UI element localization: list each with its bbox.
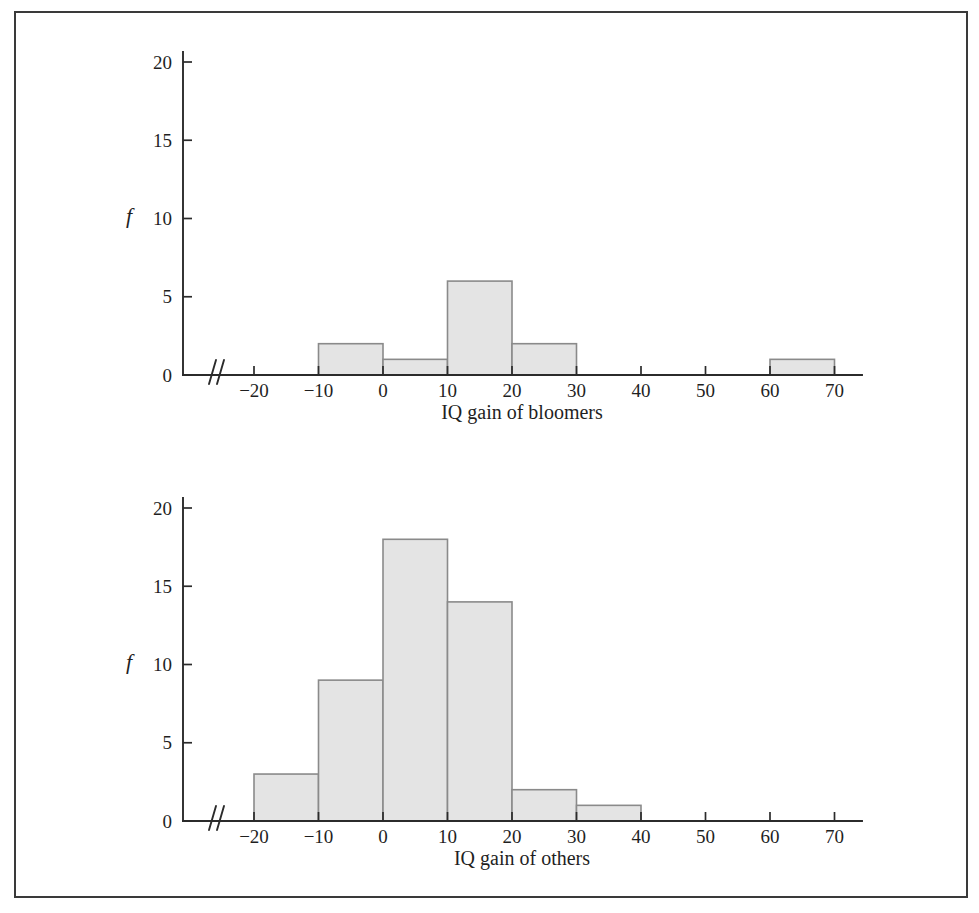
y-tick-label: 20	[153, 498, 172, 519]
figure-root: 05101520 −20−10010203040506070 f IQ gain…	[0, 0, 979, 913]
histogram-svg-bloomers: 05101520 −20−10010203040506070 f IQ gain…	[0, 0, 979, 456]
x-tick-label: 50	[696, 380, 715, 401]
x-tick-label: −20	[239, 380, 269, 401]
x-tick-label: 70	[825, 826, 844, 847]
histogram-bar	[577, 805, 642, 821]
x-tick-label: −20	[239, 826, 269, 847]
histogram-bar	[383, 359, 448, 375]
x-tick-label: 0	[378, 826, 388, 847]
histogram-bar	[319, 680, 384, 821]
x-tick-label: −10	[304, 826, 334, 847]
x-tick-labels-bloomers: −20−10010203040506070	[239, 380, 844, 401]
y-tick-label: 10	[153, 208, 172, 229]
y-tick-label: 10	[153, 654, 172, 675]
histogram-panel-others: 05101520 −20−10010203040506070 f IQ gain…	[0, 428, 979, 898]
histogram-bar	[448, 281, 513, 375]
bars-group-bloomers	[319, 281, 835, 375]
y-tick-label: 15	[153, 130, 172, 151]
y-tick-marks-bloomers	[183, 62, 192, 375]
x-tick-label: 70	[825, 380, 844, 401]
histogram-bar	[383, 539, 448, 821]
y-tick-label: 5	[163, 286, 173, 307]
y-tick-label: 0	[163, 365, 173, 386]
x-tick-labels-others: −20−10010203040506070	[239, 826, 844, 847]
y-tick-label: 0	[163, 811, 173, 832]
y-axis-label: f	[126, 649, 135, 674]
x-axis-break-icon	[209, 806, 224, 830]
y-axis-label: f	[126, 203, 135, 228]
x-tick-label: 20	[503, 826, 522, 847]
bars-group-others	[254, 539, 641, 821]
x-tick-label: 30	[567, 826, 586, 847]
y-tick-label: 15	[153, 576, 172, 597]
y-tick-label: 5	[163, 732, 173, 753]
x-axis-title: IQ gain of bloomers	[441, 401, 603, 424]
histogram-bar	[319, 344, 384, 375]
x-tick-label: 40	[632, 826, 651, 847]
histogram-panel-bloomers: 05101520 −20−10010203040506070 f IQ gain…	[0, 0, 979, 456]
x-tick-label: 10	[438, 380, 457, 401]
x-axis-title: IQ gain of others	[454, 847, 590, 870]
histogram-bar	[254, 774, 319, 821]
x-tick-label: −10	[304, 380, 334, 401]
histogram-bar	[512, 790, 577, 821]
x-tick-label: 10	[438, 826, 457, 847]
x-tick-label: 60	[761, 826, 780, 847]
y-tick-label: 20	[153, 52, 172, 73]
histogram-bar	[512, 344, 577, 375]
x-tick-label: 60	[761, 380, 780, 401]
histogram-svg-others: 05101520 −20−10010203040506070 f IQ gain…	[0, 428, 979, 898]
x-tick-label: 0	[378, 380, 388, 401]
histogram-bar	[770, 359, 835, 375]
histogram-bar	[448, 602, 513, 821]
y-tick-labels-bloomers: 05101520	[153, 52, 172, 386]
x-tick-label: 30	[567, 380, 586, 401]
y-tick-marks-others	[183, 508, 192, 821]
x-tick-label: 40	[632, 380, 651, 401]
x-axis-break-icon	[209, 360, 224, 384]
y-tick-labels-others: 05101520	[153, 498, 172, 832]
x-tick-label: 20	[503, 380, 522, 401]
x-tick-label: 50	[696, 826, 715, 847]
